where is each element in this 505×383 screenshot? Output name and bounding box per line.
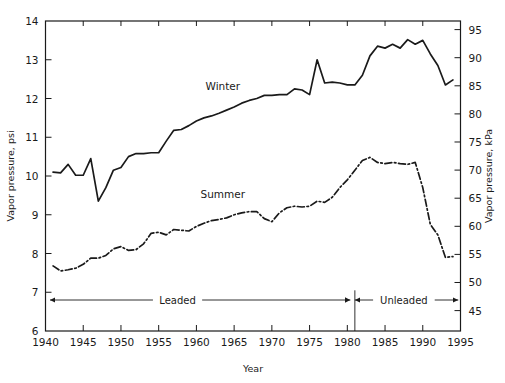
y2-axis-title: Vapor pressure, kPa xyxy=(483,129,494,223)
y2-tick-label-65: 65 xyxy=(469,192,482,204)
y2-tick-label-85: 85 xyxy=(469,80,482,92)
chart-canvas: 1940194519501955196019651970197519801985… xyxy=(0,0,505,383)
y-tick-label-6: 6 xyxy=(32,325,39,337)
x-tick-label-1985: 1985 xyxy=(372,336,399,348)
x-tick-label-1950: 1950 xyxy=(108,336,135,348)
vapor-pressure-chart-figure: 1940194519501955196019651970197519801985… xyxy=(0,0,505,383)
x-tick-label-1970: 1970 xyxy=(258,336,285,348)
y-axis-title: Vapor pressure, psi xyxy=(5,130,16,221)
x-tick-label-1980: 1980 xyxy=(334,336,361,348)
y-tick-label-10: 10 xyxy=(25,170,38,182)
x-tick-label-1995: 1995 xyxy=(447,336,474,348)
y2-tick-label-45: 45 xyxy=(469,305,482,317)
plot-frame xyxy=(46,21,461,331)
x-tick-label-1965: 1965 xyxy=(221,336,248,348)
annotation-label-leaded: Leaded xyxy=(159,295,196,306)
x-tick-label-1945: 1945 xyxy=(70,336,97,348)
y2-tick-label-80: 80 xyxy=(469,108,482,120)
x-tick-label-1940: 1940 xyxy=(32,336,59,348)
y-tick-label-8: 8 xyxy=(32,248,39,260)
x-tick-label-1960: 1960 xyxy=(183,336,210,348)
y-tick-label-14: 14 xyxy=(25,15,39,27)
series-label-summer: Summer xyxy=(201,188,246,200)
y2-tick-label-95: 95 xyxy=(469,24,482,36)
y2-tick-label-75: 75 xyxy=(469,136,482,148)
series-label-winter: Winter xyxy=(206,80,241,92)
y-tick-label-7: 7 xyxy=(32,286,39,298)
x-tick-label-1955: 1955 xyxy=(145,336,172,348)
y-tick-label-13: 13 xyxy=(25,54,38,66)
annotation-label-unleaded: Unleaded xyxy=(380,295,428,306)
y-tick-label-11: 11 xyxy=(25,131,38,143)
y2-tick-label-90: 90 xyxy=(469,52,482,64)
y2-tick-label-50: 50 xyxy=(469,276,482,288)
y2-tick-label-70: 70 xyxy=(469,164,482,176)
y-tick-label-12: 12 xyxy=(25,93,38,105)
y-tick-label-9: 9 xyxy=(32,209,39,221)
x-axis-title: Year xyxy=(242,363,263,374)
x-tick-label-1990: 1990 xyxy=(409,336,436,348)
y2-tick-label-60: 60 xyxy=(469,220,482,232)
x-tick-label-1975: 1975 xyxy=(296,336,323,348)
series-line-winter xyxy=(53,40,453,202)
series-line-summer xyxy=(53,157,453,271)
y2-tick-label-55: 55 xyxy=(469,248,482,260)
